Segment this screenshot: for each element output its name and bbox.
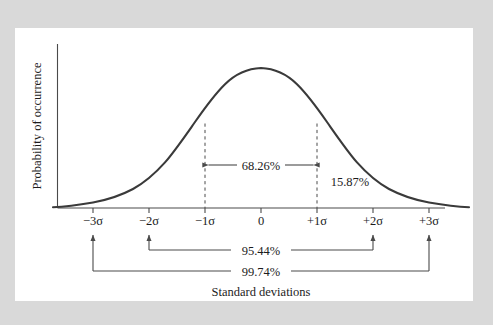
x-axis-title: Standard deviations — [212, 285, 311, 299]
x-tick-label-plus-1-sigma: +1σ — [307, 214, 327, 228]
bell-curve — [53, 68, 469, 207]
figure-panel: 68.26% 15.87% −3σ −2σ −1σ 0 +1σ +2σ +3σ … — [15, 28, 473, 301]
x-tick-label-minus-2-sigma: −2σ — [139, 214, 159, 228]
normal-distribution-chart: 68.26% 15.87% −3σ −2σ −1σ 0 +1σ +2σ +3σ … — [15, 28, 473, 301]
x-tick-label-minus-3-sigma: −3σ — [83, 214, 103, 228]
x-tick-label-zero: 0 — [258, 214, 264, 228]
x-tick-label-plus-3-sigma: +3σ — [419, 214, 439, 228]
x-tick-label-minus-1-sigma: −1σ — [195, 214, 215, 228]
x-tick-label-plus-2-sigma: +2σ — [363, 214, 383, 228]
label-95-44-percent: 95.44% — [242, 244, 281, 258]
y-axis-title: Probability of occurrence — [30, 62, 44, 189]
label-15-87-percent: 15.87% — [331, 175, 370, 189]
label-68-26-percent: 68.26% — [242, 159, 281, 173]
label-99-74-percent: 99.74% — [242, 265, 281, 279]
